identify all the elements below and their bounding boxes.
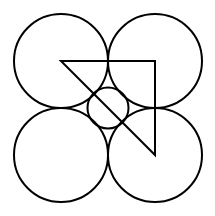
right-triangle <box>61 61 155 155</box>
geometry-diagram <box>0 0 215 216</box>
